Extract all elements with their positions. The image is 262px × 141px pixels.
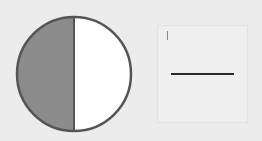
unshaded-half — [74, 17, 131, 131]
shaded-half — [17, 17, 74, 131]
text-cursor — [167, 31, 168, 40]
fraction-circle-diagram — [0, 0, 150, 141]
fraction-answer-box[interactable] — [157, 25, 248, 123]
circle-svg — [0, 0, 150, 141]
fraction-bar — [171, 73, 234, 75]
